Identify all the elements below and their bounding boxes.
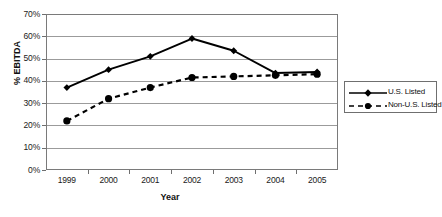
y-tick-label: 20%: [12, 121, 40, 129]
series-2: [63, 71, 320, 125]
data-point-diamond: [230, 47, 237, 54]
legend-label-us-listed: U.S. Listed: [388, 87, 425, 96]
ebitda-line-chart: % EBITDA 0%10%20%30%40%50%60%70% 1999200…: [0, 0, 442, 217]
data-point-circle: [230, 73, 237, 80]
data-point-circle: [314, 71, 321, 78]
x-tick-label: 1999: [47, 176, 87, 185]
x-tick-mark: [255, 170, 256, 174]
x-tick-mark: [296, 170, 297, 174]
data-point-circle: [188, 74, 195, 81]
data-point-diamond: [189, 35, 196, 42]
data-point-circle: [147, 84, 154, 91]
x-tick-mark: [171, 170, 172, 174]
data-point-diamond: [105, 66, 112, 73]
data-point-circle: [272, 72, 279, 79]
legend-key-dashed-circle: [348, 98, 388, 110]
x-tick-label: 2001: [130, 176, 170, 185]
series-1: [63, 35, 320, 91]
data-point-diamond: [147, 53, 154, 60]
legend-item-us-listed: U.S. Listed: [348, 84, 425, 98]
chart-legend: U.S. Listed Non-U.S. Listed: [344, 81, 437, 113]
y-tick-label: 60%: [12, 32, 40, 40]
x-tick-label: 2003: [214, 176, 254, 185]
y-tick-label: 30%: [12, 99, 40, 107]
x-axis-title: Year: [0, 192, 442, 202]
data-point-circle: [105, 95, 112, 102]
y-tick-label: 40%: [12, 76, 40, 84]
x-tick-label: 2005: [297, 176, 337, 185]
legend-item-non-us-listed: Non-U.S. Listed: [348, 97, 441, 111]
x-tick-mark: [88, 170, 89, 174]
x-tick-mark: [213, 170, 214, 174]
y-tick-mark: [42, 170, 46, 171]
y-tick-label: 0%: [12, 166, 40, 174]
data-point-diamond: [63, 84, 70, 91]
data-point-circle: [63, 117, 70, 124]
y-tick-label: 50%: [12, 54, 40, 62]
series-line: [67, 74, 317, 121]
y-tick-label: 70%: [12, 10, 40, 18]
x-tick-mark: [129, 170, 130, 174]
x-tick-label: 2000: [89, 176, 129, 185]
y-tick-label: 10%: [12, 143, 40, 151]
x-tick-label: 2002: [172, 176, 212, 185]
legend-key-solid-diamond: [348, 85, 388, 97]
series-layer: [46, 14, 338, 170]
x-tick-label: 2004: [255, 176, 295, 185]
legend-label-non-us-listed: Non-U.S. Listed: [388, 100, 441, 109]
x-axis-title-text: Year: [160, 192, 179, 202]
